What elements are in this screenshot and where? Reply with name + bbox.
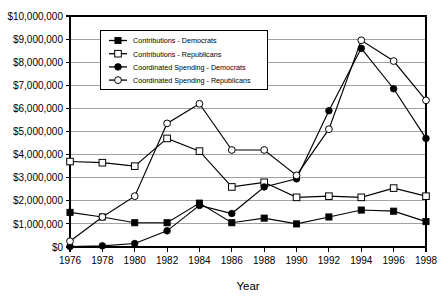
y-tick-label: $7,000,000	[13, 80, 63, 91]
data-point-marker	[293, 221, 299, 227]
chart-legend[interactable]: Contributions - DemocratsContributions -…	[100, 30, 267, 89]
data-point-marker	[164, 228, 171, 235]
y-tick-label: $5,000,000	[13, 126, 63, 137]
data-point-marker	[390, 58, 397, 65]
data-point-marker	[423, 193, 430, 200]
data-point-marker	[164, 135, 171, 142]
data-point-marker	[115, 37, 121, 43]
y-tick-label: $2,000,000	[13, 195, 63, 206]
y-tick-label: $0	[52, 242, 64, 253]
x-tick-label: 1980	[124, 255, 147, 266]
data-point-marker	[261, 215, 267, 221]
x-tick-label: 1996	[383, 255, 406, 266]
x-tick-label: 1982	[156, 255, 179, 266]
chart-canvas: $0$1,000,000$2,000,000$3,000,000$4,000,0…	[0, 0, 440, 297]
data-point-marker	[229, 220, 235, 226]
data-point-marker	[326, 214, 332, 220]
x-tick-label: 1986	[221, 255, 244, 266]
data-point-marker	[115, 77, 122, 84]
y-tick-label: $1,000,000	[13, 219, 63, 230]
data-point-marker	[164, 120, 171, 127]
data-point-marker	[358, 37, 365, 44]
data-point-marker	[196, 100, 203, 107]
legend-item-label: Coordinated Spending - Democrats	[133, 63, 246, 72]
data-point-marker	[423, 97, 430, 104]
data-point-marker	[391, 208, 397, 214]
data-point-marker	[196, 202, 203, 209]
data-point-marker	[326, 107, 333, 114]
x-axis-title: Year	[236, 280, 259, 292]
data-point-marker	[132, 220, 138, 226]
y-tick-label: $10,000,000	[7, 11, 63, 22]
data-point-marker	[293, 194, 300, 201]
data-point-marker	[131, 240, 138, 247]
data-point-marker	[67, 238, 74, 245]
data-point-marker	[99, 214, 106, 221]
line-chart-figure: $0$1,000,000$2,000,000$3,000,000$4,000,0…	[0, 0, 440, 297]
x-tick-label: 1990	[285, 255, 308, 266]
legend-item-label: Contributions - Republicans	[133, 50, 222, 59]
data-point-marker	[115, 50, 122, 57]
data-point-marker	[390, 85, 397, 92]
x-tick-label: 1994	[350, 255, 373, 266]
data-point-marker	[358, 207, 364, 213]
data-point-marker	[99, 159, 106, 166]
y-tick-label: $8,000,000	[13, 57, 63, 68]
legend-item-label: Coordinated Spending - Republicans	[133, 76, 251, 85]
y-tick-label: $3,000,000	[13, 172, 63, 183]
x-tick-label: 1988	[253, 255, 276, 266]
data-point-marker	[358, 194, 365, 201]
data-point-marker	[326, 193, 333, 200]
y-tick-label: $4,000,000	[13, 149, 63, 160]
data-point-marker	[423, 135, 430, 142]
data-point-marker	[67, 209, 73, 215]
legend-item-label: Contributions - Democrats	[133, 36, 217, 45]
data-point-marker	[261, 147, 268, 154]
chart-page: $0$1,000,000$2,000,000$3,000,000$4,000,0…	[0, 0, 440, 297]
data-point-marker	[131, 163, 138, 170]
x-tick-label: 1992	[318, 255, 341, 266]
data-point-marker	[164, 220, 170, 226]
data-point-marker	[99, 243, 106, 250]
data-point-marker	[229, 210, 236, 217]
data-point-marker	[423, 218, 429, 224]
data-point-marker	[196, 148, 203, 155]
data-point-marker	[131, 193, 138, 200]
x-tick-label: 1978	[91, 255, 114, 266]
y-tick-label: $6,000,000	[13, 103, 63, 114]
x-tick-label: 1998	[415, 255, 438, 266]
y-tick-label: $9,000,000	[13, 34, 63, 45]
data-point-marker	[115, 64, 122, 71]
x-tick-label: 1984	[188, 255, 211, 266]
x-tick-label: 1976	[59, 255, 82, 266]
data-point-marker	[326, 126, 333, 133]
data-point-marker	[67, 158, 74, 165]
data-point-marker	[229, 184, 236, 191]
data-point-marker	[390, 185, 397, 192]
data-point-marker	[261, 184, 268, 191]
data-point-marker	[293, 172, 300, 179]
data-point-marker	[228, 147, 235, 154]
